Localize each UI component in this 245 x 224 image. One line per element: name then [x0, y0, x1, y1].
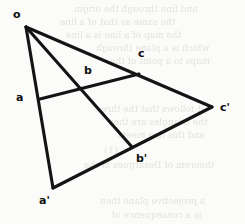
point-label-c: c [138, 48, 145, 59]
figure-segment-line-a-b-c [40, 74, 139, 99]
point-label-a: a [16, 92, 23, 103]
point-label-c1: c' [220, 102, 230, 113]
figure-segments [26, 27, 212, 188]
figure-page: and line through the originthe same as t… [0, 0, 245, 224]
point-label-a1: a' [39, 195, 50, 206]
desargues-figure [0, 0, 245, 224]
point-label-b: b [84, 65, 92, 76]
point-label-b1: b' [136, 153, 147, 164]
figure-segment-line-a-prime-b-prime-c-prime [53, 107, 212, 188]
point-label-o: o [13, 9, 21, 20]
